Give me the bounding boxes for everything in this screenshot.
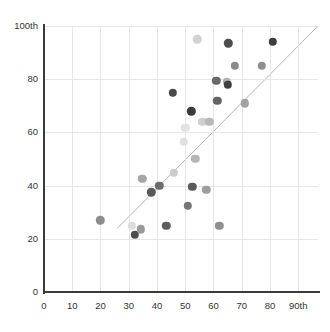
scatter-point bbox=[202, 185, 210, 193]
scatter-point bbox=[162, 221, 170, 229]
scatter-point bbox=[224, 39, 232, 47]
gridline-horizontal bbox=[44, 26, 318, 27]
scatter-point bbox=[269, 38, 277, 46]
gridline-vertical bbox=[242, 26, 243, 292]
x-axis-tick-label: 0 bbox=[41, 301, 46, 311]
scatter-point bbox=[184, 201, 192, 209]
scatter-point bbox=[191, 155, 199, 163]
y-axis-tick-label: 40 bbox=[27, 181, 38, 191]
scatter-point bbox=[147, 188, 155, 196]
x-axis-tick-label: 90th bbox=[289, 301, 308, 311]
scatter-point bbox=[180, 138, 188, 146]
scatter-point bbox=[213, 97, 221, 105]
scatter-point bbox=[155, 181, 163, 189]
gridline-vertical bbox=[100, 26, 101, 292]
gridline-vertical bbox=[157, 26, 158, 292]
gridline-vertical bbox=[270, 26, 271, 292]
scatter-point bbox=[215, 221, 223, 229]
scatter-point bbox=[127, 221, 135, 229]
scatter-plot-figure: 020406080100th 0102030405060708090th bbox=[0, 0, 330, 332]
scatter-point bbox=[212, 76, 220, 84]
scatter-point bbox=[136, 225, 144, 233]
gridline-vertical bbox=[72, 26, 73, 292]
scatter-point bbox=[188, 183, 196, 191]
gridline-horizontal bbox=[44, 132, 318, 133]
y-axis-tick-label: 60 bbox=[27, 127, 38, 137]
y-axis-line bbox=[43, 24, 45, 294]
x-axis-tick-label: 80 bbox=[265, 301, 276, 311]
gridline-horizontal bbox=[44, 239, 318, 240]
y-axis-tick-label: 80 bbox=[27, 74, 38, 84]
scatter-point bbox=[240, 99, 248, 107]
y-axis-tick-label: 20 bbox=[27, 234, 38, 244]
x-axis-line bbox=[44, 291, 320, 293]
x-axis-tick-label: 10 bbox=[67, 301, 78, 311]
scatter-point bbox=[170, 169, 178, 177]
gridline-vertical bbox=[298, 26, 299, 292]
x-axis-tick-label: 70 bbox=[236, 301, 247, 311]
x-axis-tick-label: 20 bbox=[95, 301, 106, 311]
scatter-point bbox=[193, 35, 201, 43]
y-axis-tick-label: 100th bbox=[14, 21, 38, 31]
scatter-point bbox=[230, 62, 238, 70]
scatter-point bbox=[138, 175, 146, 183]
gridline-vertical bbox=[185, 26, 186, 292]
scatter-point bbox=[257, 62, 265, 70]
scatter-point bbox=[187, 107, 195, 115]
scatter-point bbox=[168, 88, 176, 96]
x-axis-tick-label: 60 bbox=[208, 301, 219, 311]
gridline-vertical bbox=[129, 26, 130, 292]
y-axis-tick-label: 0 bbox=[33, 287, 38, 297]
x-axis-tick-label: 50 bbox=[180, 301, 191, 311]
scatter-point bbox=[96, 216, 104, 224]
scatter-point bbox=[205, 118, 213, 126]
x-axis-tick-label: 40 bbox=[152, 301, 163, 311]
plot-area bbox=[44, 26, 318, 292]
gridline-vertical bbox=[213, 26, 214, 292]
x-axis-tick-label: 30 bbox=[123, 301, 134, 311]
gridline-horizontal bbox=[44, 186, 318, 187]
scatter-point bbox=[181, 123, 189, 131]
gridline-horizontal bbox=[44, 79, 318, 80]
scatter-point bbox=[223, 81, 231, 89]
